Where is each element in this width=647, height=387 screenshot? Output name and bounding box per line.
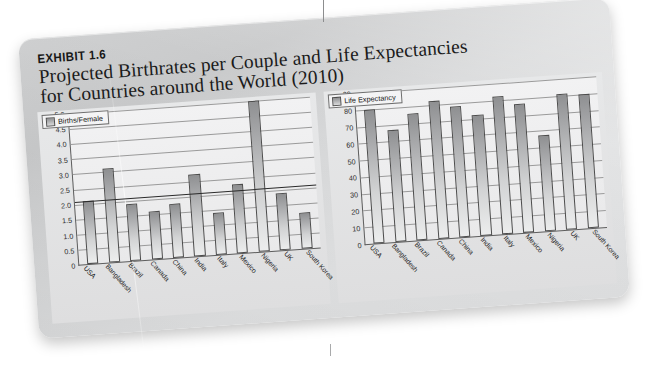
bar (102, 168, 120, 262)
x-tick-label: UK (282, 250, 294, 262)
y-tick-label: 60 (346, 140, 355, 150)
binding-mark-top (323, 0, 324, 22)
y-tick-label: 30 (350, 190, 359, 200)
bar (232, 183, 248, 253)
y-tick-label: 50 (347, 157, 356, 167)
x-tick-label: Brazil (127, 261, 144, 279)
x-tick-label: India (194, 256, 209, 272)
y-tick-label: 1.5 (62, 216, 73, 226)
bar (387, 129, 406, 242)
x-tick-label: Italy (216, 255, 230, 269)
legend-label: Life Expectancy (344, 92, 396, 105)
y-tick-label: 2.0 (61, 201, 72, 211)
x-tick-label: Italy (502, 234, 516, 248)
chart-births-per-female: Births/Female 5.04.54.03.53.02.52.01.51.… (37, 92, 330, 323)
bar (213, 212, 227, 255)
x-label-slot: South Korea (586, 226, 612, 283)
y-tick-label: 0.5 (64, 246, 75, 256)
bar (169, 203, 184, 258)
y-tick-label: 70 (345, 123, 354, 133)
y-tick-label: 80 (344, 106, 353, 116)
exhibit-panel: EXHIBIT 1.6 Projected Birthrates per Cou… (18, 0, 630, 339)
y-tick-label: 3.5 (57, 155, 68, 165)
x-tick-label: South Korea (591, 228, 621, 260)
bar (538, 135, 556, 231)
x-tick-label: Brazil (413, 241, 430, 259)
bar (189, 174, 206, 256)
legend-label: Births/Female (58, 113, 104, 125)
charts-row: Births/Female 5.04.54.03.53.02.52.01.51.… (37, 72, 617, 324)
bar (299, 212, 313, 249)
x-tick-label: China (171, 258, 188, 276)
y-tick-label: 10 (352, 224, 361, 234)
y-tick-label: 3.0 (59, 171, 70, 181)
y-tick-label: 4.0 (56, 140, 67, 150)
x-tick-label: China (458, 237, 475, 255)
chart-life-expectancy: Life Expectancy 9080706050403020100 USAB… (324, 72, 617, 303)
x-tick-label: South Korea (305, 248, 335, 280)
y-tick-label: 2.5 (60, 186, 71, 196)
y-tick-label: 20 (351, 207, 360, 217)
x-tick-label: UK (569, 229, 581, 241)
y-tick-label: 1.0 (63, 231, 74, 241)
bar (578, 94, 599, 229)
x-label-slot: South Korea (299, 246, 325, 303)
bar (126, 203, 141, 261)
binding-mark-bottom (330, 344, 331, 356)
legend-swatch-icon (332, 96, 342, 106)
bar (148, 211, 163, 260)
x-tick-label: USA (83, 264, 98, 279)
x-tick-label: USA (369, 244, 384, 259)
x-tick-label: India (480, 236, 495, 252)
y-tick-label: 40 (349, 174, 358, 184)
bar (276, 192, 291, 250)
legend-swatch-icon (46, 117, 56, 127)
bar (83, 200, 99, 264)
